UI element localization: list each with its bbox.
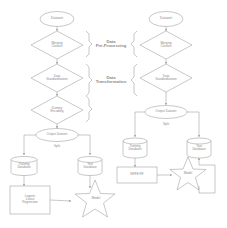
right-training-db-shape — [123, 138, 147, 158]
left-training-db-shape — [11, 157, 37, 176]
right-dataset-shape — [149, 12, 183, 27]
left-test-db-shape — [78, 157, 102, 176]
right-model-shape — [170, 157, 206, 190]
right-output-dataset-shape — [145, 106, 187, 119]
flowchart-canvas — [0, 0, 227, 228]
pipeline-flowchart: Dataset Merging Classes Data Standardiza… — [0, 0, 227, 228]
right-standardization-shape — [140, 64, 192, 92]
right-algorithm-shape — [117, 167, 157, 183]
left-standardization-shape — [31, 64, 83, 92]
left-output-dataset-shape — [36, 129, 78, 142]
left-dummy-encoding-shape — [31, 96, 83, 124]
left-merging-classes-shape — [31, 31, 83, 59]
left-algorithm-shape — [10, 186, 50, 214]
left-model-shape — [75, 180, 115, 217]
right-merging-classes-shape — [140, 31, 192, 59]
right-test-db-shape — [187, 138, 211, 158]
left-dataset-shape — [40, 12, 74, 27]
